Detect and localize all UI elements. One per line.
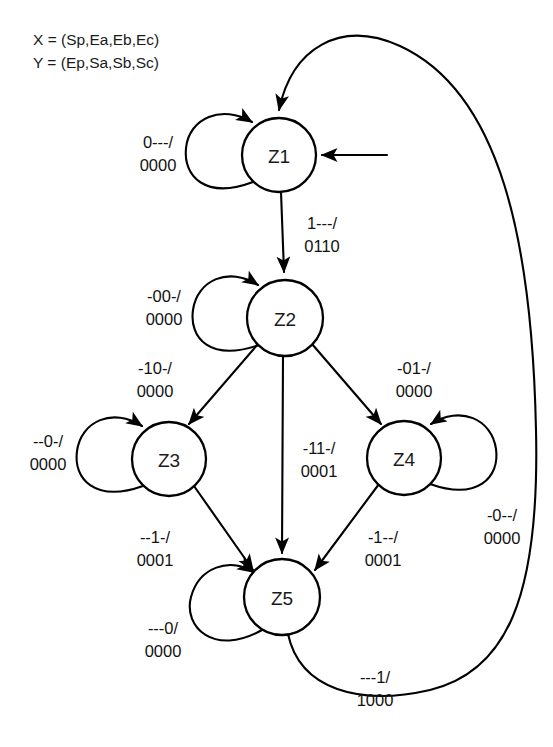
edge-label-z4-self-output: 0000 (484, 529, 521, 547)
state-node-z5[interactable]: Z5 (244, 559, 320, 635)
legend-line-x: X = (Sp,Ea,Eb,Ec) (33, 31, 159, 48)
edge-z3-to-z5 (194, 486, 253, 570)
edge-label-z1-to-z2-output: 0110 (304, 237, 339, 255)
edge-label-z4-to-z5-input: -1--/ (368, 528, 399, 546)
state-node-z3[interactable]: Z3 (132, 422, 206, 496)
edge-label-z2-self: -00-/ 0000 (146, 287, 183, 328)
edge-label-z2-self-output: 0000 (146, 310, 183, 328)
edge-label-z2-to-z4: -01-/ 0000 (396, 359, 433, 400)
state-label-z4: Z4 (393, 449, 416, 470)
edge-label-z3-to-z5: --1-/ 0001 (137, 528, 174, 569)
edge-label-z2-self-input: -00-/ (147, 287, 181, 305)
edge-label-z5-self-output: 0000 (145, 642, 182, 660)
state-label-z1: Z1 (268, 146, 290, 167)
edge-z2-to-z3 (189, 344, 258, 424)
edge-label-z2-to-z3: -10-/ 0000 (137, 359, 174, 400)
edge-label-z1-to-z2-input: 1---/ (307, 214, 338, 232)
state-node-z1[interactable]: Z1 (242, 118, 316, 192)
edge-label-z5-to-z1-output: 1000 (357, 691, 394, 709)
edge-label-z3-self-input: --0-/ (33, 432, 64, 450)
edge-label-z5-to-z1: ---1/ 1000 (357, 668, 394, 709)
edge-label-z2-to-z5-output: 0001 (301, 462, 338, 480)
edge-label-z4-to-z5: -1--/ 0001 (365, 528, 402, 569)
state-diagram-canvas: X = (Sp,Ea,Eb,Ec) Y = (Ep,Sa,Sb,Sc) (0, 0, 553, 747)
edge-label-z5-self-input: ---0/ (148, 619, 179, 637)
edge-label-z1-to-z2: 1---/ 0110 (304, 214, 339, 255)
edge-label-z2-to-z4-input: -01-/ (397, 359, 431, 377)
state-node-z4[interactable]: Z4 (367, 421, 441, 495)
edge-label-z2-to-z5: -11-/ 0001 (301, 439, 338, 480)
edge-label-z3-to-z5-output: 0001 (137, 551, 174, 569)
edge-label-z3-self: --0-/ 0000 (30, 432, 67, 473)
edge-label-z4-self: -0--/ 0000 (484, 506, 521, 547)
edge-label-z1-self-input: 0---/ (143, 133, 174, 151)
edge-label-z1-self-output: 0000 (140, 156, 177, 174)
edge-z2-to-z5 (282, 356, 283, 553)
edge-label-z2-to-z3-input: -10-/ (138, 359, 172, 377)
edge-label-z2-to-z3-output: 0000 (137, 382, 174, 400)
state-label-z5: Z5 (271, 588, 293, 609)
edge-label-z1-self: 0---/ 0000 (140, 133, 177, 174)
edge-label-z5-self: ---0/ 0000 (145, 619, 182, 660)
state-label-z3: Z3 (158, 450, 180, 471)
edge-z2-to-z4 (312, 344, 381, 424)
fsm-diagram: X = (Sp,Ea,Eb,Ec) Y = (Ep,Sa,Sb,Sc) (0, 0, 553, 747)
edge-label-z3-self-output: 0000 (30, 455, 67, 473)
edge-label-z3-to-z5-input: --1-/ (140, 528, 171, 546)
edge-z1-to-z2 (281, 192, 284, 272)
edge-label-z5-to-z1-input: ---1/ (360, 668, 391, 686)
legend-line-y: Y = (Ep,Sa,Sb,Sc) (33, 54, 159, 71)
edge-label-z2-to-z4-output: 0000 (396, 382, 433, 400)
edge-label-z4-self-input: -0--/ (487, 506, 518, 524)
edge-label-z2-to-z5-input: -11-/ (303, 439, 336, 457)
edge-label-z4-to-z5-output: 0001 (365, 551, 402, 569)
state-label-z2: Z2 (274, 309, 296, 330)
state-node-z2[interactable]: Z2 (247, 280, 323, 356)
